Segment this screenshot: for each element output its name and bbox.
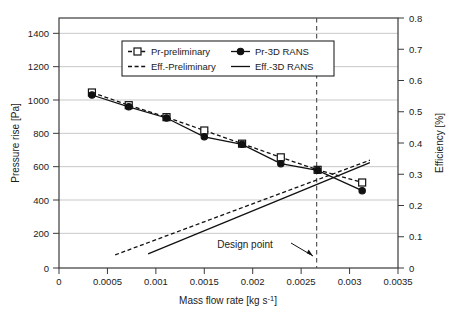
left-tick-label: 800 (33, 128, 49, 139)
x-axis-title-base: Mass flow rate [kg s (179, 295, 267, 306)
y-axis-right-title: Efficiency [%] (434, 113, 445, 173)
left-tick-label: 200 (33, 228, 49, 239)
right-tick-label: 0.7 (409, 44, 422, 55)
right-tick-label: 0 (409, 263, 414, 274)
legend-item-pr-preliminary: Pr-preliminary (128, 46, 210, 57)
left-tick-label: 400 (33, 195, 49, 206)
x-axis-title-superscript: -1 (267, 294, 274, 303)
x-tick-label: 0 (56, 276, 61, 287)
right-tick-label: 0.3 (409, 169, 422, 180)
x-axis-tick-labels: 0 0.0005 0.001 0.0015 0.002 0.0025 0.003… (56, 276, 412, 287)
chart-figure: 1400 1200 1000 800 600 400 200 0 0.8 0.7… (0, 0, 457, 314)
x-tick-label: 0.002 (241, 276, 265, 287)
legend: Pr-preliminary Pr-3D RANS Eff.-Prelimina… (122, 41, 334, 76)
left-tick-label: 1000 (28, 95, 49, 106)
x-tick-label: 0.001 (144, 276, 168, 287)
chart-svg: 1400 1200 1000 800 600 400 200 0 0.8 0.7… (0, 0, 457, 314)
right-tick-label: 0.8 (409, 13, 422, 24)
x-tick-label: 0.0005 (93, 276, 122, 287)
x-tick-label: 0.0015 (190, 276, 219, 287)
legend-label: Pr-3D RANS (255, 46, 309, 57)
legend-label: Pr-preliminary (151, 46, 210, 57)
x-axis-title: Mass flow rate [kg s-1] (179, 294, 277, 307)
x-axis-title-tail: ] (274, 295, 277, 306)
right-tick-label: 0.6 (409, 75, 422, 86)
legend-label: Eff.-3D RANS (255, 61, 313, 72)
x-axis-ticks (59, 268, 398, 274)
left-axis-ticks (53, 33, 59, 268)
legend-marker-filled-circle (237, 48, 243, 54)
legend-marker-open-square (134, 48, 141, 55)
x-tick-label: 0.0025 (287, 276, 316, 287)
left-tick-label: 600 (33, 161, 49, 172)
right-axis-ticks (398, 18, 404, 268)
design-point-label: Design point (217, 239, 273, 250)
left-tick-label: 1400 (28, 28, 49, 39)
right-tick-label: 0.1 (409, 231, 422, 242)
x-tick-label: 0.003 (338, 276, 362, 287)
right-axis-tick-labels: 0.8 0.7 0.6 0.5 0.4 0.3 0.2 0.1 0 (409, 13, 422, 274)
left-axis-tick-labels: 1400 1200 1000 800 600 400 200 0 (28, 28, 49, 274)
left-tick-label: 1200 (28, 61, 49, 72)
right-tick-label: 0.5 (409, 106, 422, 117)
x-tick-label: 0.0035 (383, 276, 412, 287)
left-tick-label: 0 (44, 263, 49, 274)
right-tick-label: 0.2 (409, 200, 422, 211)
y-axis-left-title: Pressure rise [Pa] (10, 103, 21, 183)
right-tick-label: 0.4 (409, 138, 422, 149)
legend-label: Eff.-Preliminary (151, 61, 216, 72)
